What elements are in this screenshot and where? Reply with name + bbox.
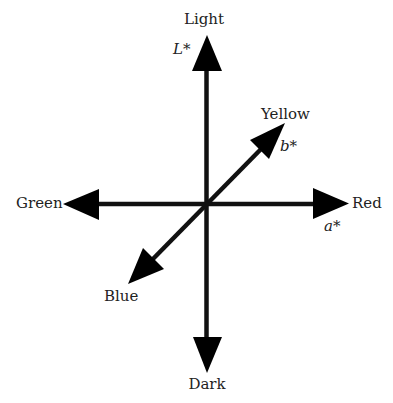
arrow-up-icon [192,35,222,71]
label-green: Green [16,194,63,212]
arrow-left-icon [63,189,99,220]
axis-label-b-star: b* [280,137,298,155]
lab-color-space-diagram: Light Dark Red Green Yellow Blue L* a* b… [0,0,393,403]
label-blue: Blue [104,287,138,305]
label-red: Red [352,194,382,212]
label-yellow: Yellow [260,105,310,123]
label-light: Light [184,10,224,28]
label-dark: Dark [188,375,226,393]
arrow-down-icon [193,337,222,373]
arrow-right-icon [313,188,349,219]
axis-label-a-star: a* [324,217,341,235]
axis-label-l-star: L* [172,40,191,58]
